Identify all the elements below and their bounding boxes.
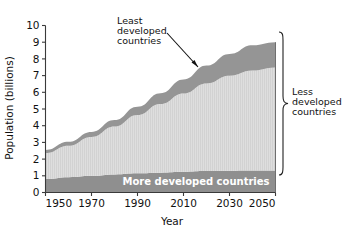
x-axis-title: Year: [160, 215, 184, 227]
more-developed-band-label: More developed countries: [122, 176, 269, 187]
y-tick-label: 5: [33, 103, 40, 115]
x-tick-label: 1990: [124, 197, 151, 209]
y-tick-label: 7: [33, 69, 40, 81]
x-tick-label: 2010: [170, 197, 197, 209]
y-tick-label: 6: [33, 86, 40, 98]
least-developed-label-line3: countries: [117, 35, 161, 46]
population-projection-area-chart: 012345678910 195019701990201020302050 Ye…: [0, 0, 348, 229]
x-tick-label: 2030: [216, 197, 243, 209]
y-tick-label: 4: [33, 119, 40, 131]
y-tick-label: 1: [33, 169, 40, 181]
y-axis-title: Population (billions): [3, 56, 15, 160]
x-tick-label: 1950: [46, 197, 73, 209]
y-tick-label: 10: [26, 19, 39, 31]
y-tick-label: 8: [33, 53, 40, 65]
less-developed-label-line3: countries: [292, 106, 336, 117]
x-tick-label: 2050: [249, 197, 276, 209]
y-tick-label: 2: [33, 153, 40, 165]
y-tick-label: 9: [33, 36, 40, 48]
x-tick-label: 1970: [78, 197, 105, 209]
y-tick-label: 3: [33, 136, 40, 148]
chart-figure: 012345678910 195019701990201020302050 Ye…: [0, 0, 348, 229]
y-tick-label: 0: [33, 186, 40, 198]
